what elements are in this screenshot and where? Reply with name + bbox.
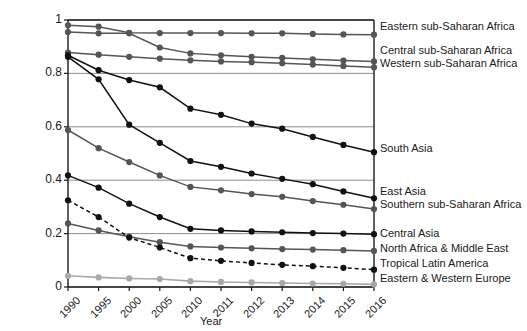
series-marker-5	[126, 159, 132, 165]
series-marker-4	[249, 170, 255, 176]
series-marker-6	[157, 214, 163, 220]
series-marker-4	[126, 122, 132, 128]
series-marker-7	[279, 246, 285, 252]
series-marker-3	[187, 106, 193, 112]
series-marker-3	[218, 112, 224, 118]
series-marker-3	[371, 149, 377, 155]
series-line-6	[68, 175, 374, 234]
series-marker-6	[218, 227, 224, 233]
y-tick-label: 0.6	[24, 119, 62, 133]
series-marker-1	[249, 54, 255, 60]
series-marker-8	[218, 258, 224, 264]
series-label: Eastern sub-Saharan Africa	[380, 20, 515, 32]
series-marker-0	[157, 30, 163, 36]
series-marker-1	[371, 58, 377, 64]
y-tick-label: 0.4	[24, 172, 62, 186]
series-marker-0	[65, 22, 71, 28]
series-marker-4	[340, 188, 346, 194]
series-marker-0	[279, 30, 285, 36]
series-marker-1	[187, 50, 193, 56]
series-marker-8	[249, 260, 255, 266]
series-marker-7	[310, 247, 316, 253]
series-marker-1	[218, 52, 224, 58]
series-marker-4	[65, 54, 71, 60]
series-marker-3	[279, 126, 285, 132]
series-marker-5	[279, 194, 285, 200]
y-axis-title: Proportion of population using solid fue…	[0, 0, 8, 43]
series-marker-1	[310, 56, 316, 62]
series-marker-8	[371, 267, 377, 273]
series-marker-4	[371, 195, 377, 201]
series-marker-2	[371, 64, 377, 70]
series-marker-7	[249, 245, 255, 251]
series-marker-9	[249, 279, 255, 285]
y-tick-label: 0.8	[24, 65, 62, 79]
series-marker-2	[249, 59, 255, 65]
series-marker-2	[126, 54, 132, 60]
series-label: Southern sub-Saharan Africa	[380, 198, 521, 210]
series-marker-8	[96, 214, 102, 220]
series-marker-6	[126, 201, 132, 207]
series-marker-1	[279, 55, 285, 61]
series-marker-5	[218, 187, 224, 193]
x-axis-title: Year	[200, 315, 222, 327]
series-marker-4	[96, 76, 102, 82]
series-marker-7	[65, 220, 71, 226]
series-marker-3	[157, 84, 163, 90]
series-marker-7	[96, 227, 102, 233]
series-marker-2	[187, 57, 193, 63]
series-label: Western sub-Saharan Africa	[380, 57, 517, 69]
series-line-4	[68, 57, 374, 199]
series-marker-8	[310, 263, 316, 269]
series-marker-9	[279, 280, 285, 286]
series-marker-5	[340, 202, 346, 208]
series-marker-0	[371, 32, 377, 38]
series-marker-9	[340, 281, 346, 287]
y-tick-label: 0	[24, 279, 62, 293]
series-marker-6	[96, 185, 102, 191]
series-marker-8	[187, 255, 193, 261]
series-marker-6	[249, 228, 255, 234]
series-marker-4	[279, 176, 285, 182]
series-marker-3	[126, 77, 132, 83]
series-marker-3	[249, 120, 255, 126]
series-marker-2	[340, 63, 346, 69]
series-label: South Asia	[380, 142, 433, 154]
series-label: North Africa & Middle East	[380, 242, 508, 254]
chart-figure: Proportion of population using solid fue…	[0, 0, 527, 331]
series-marker-0	[96, 24, 102, 30]
series-marker-4	[187, 158, 193, 164]
series-marker-6	[340, 231, 346, 237]
series-marker-0	[310, 31, 316, 37]
series-marker-5	[157, 172, 163, 178]
series-marker-9	[126, 275, 132, 281]
series-marker-1	[65, 29, 71, 35]
series-marker-7	[371, 248, 377, 254]
series-marker-5	[96, 145, 102, 151]
series-label: East Asia	[380, 185, 426, 197]
series-marker-4	[218, 164, 224, 170]
series-marker-3	[96, 67, 102, 73]
series-marker-9	[96, 274, 102, 280]
series-marker-9	[187, 278, 193, 284]
series-marker-8	[126, 235, 132, 241]
series-marker-9	[371, 281, 377, 287]
series-marker-6	[65, 172, 71, 178]
series-marker-7	[157, 239, 163, 245]
series-marker-2	[310, 61, 316, 67]
series-marker-8	[340, 265, 346, 271]
series-marker-7	[340, 247, 346, 253]
series-label: Central sub-Saharan Africa	[380, 44, 512, 56]
series-marker-9	[310, 280, 316, 286]
series-marker-6	[371, 231, 377, 237]
series-marker-2	[218, 58, 224, 64]
series-marker-3	[340, 142, 346, 148]
series-marker-1	[157, 44, 163, 50]
series-label: Eastern & Western Europe	[380, 272, 511, 284]
series-marker-4	[310, 181, 316, 187]
series-marker-6	[279, 229, 285, 235]
series-marker-2	[279, 60, 285, 66]
series-marker-3	[310, 134, 316, 140]
series-marker-0	[249, 30, 255, 36]
series-marker-2	[96, 52, 102, 58]
